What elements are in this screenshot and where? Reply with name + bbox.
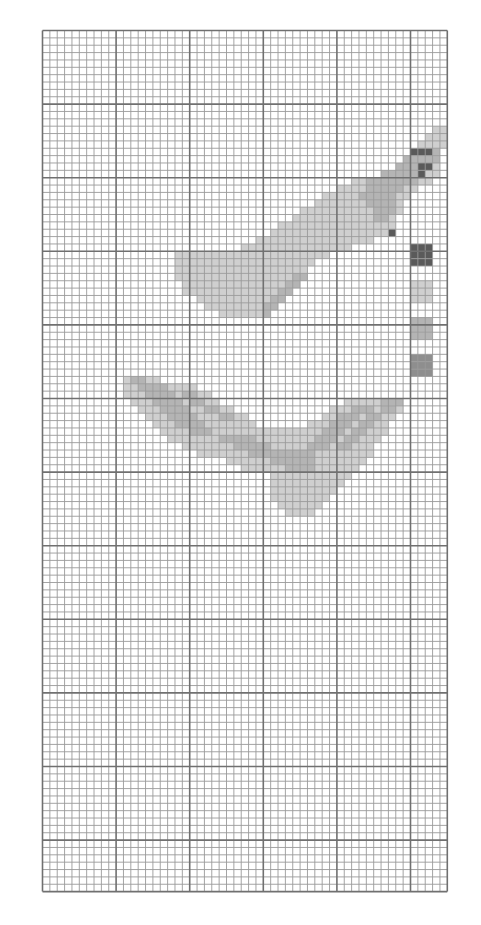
upper-bird-stitch-light bbox=[175, 251, 330, 258]
upper-bird-stitch-mid bbox=[359, 192, 396, 199]
palette-swatch-light bbox=[411, 281, 433, 288]
upper-bird-stitch-light bbox=[241, 244, 351, 251]
palette-swatch-darkest bbox=[411, 259, 433, 266]
lower-bird-stitch-mid bbox=[330, 421, 352, 428]
upper-bird-stitch-mid bbox=[374, 207, 396, 214]
palette-swatch-mid bbox=[411, 318, 433, 325]
palette-swatch-dark bbox=[411, 354, 433, 361]
upper-bird-stitch-darkest bbox=[411, 148, 433, 155]
lower-bird-stitch-mid bbox=[315, 435, 337, 442]
upper-bird-stitch-mid bbox=[396, 163, 418, 170]
lower-bird-stitch-mid bbox=[234, 443, 271, 450]
lower-bird-stitch-light bbox=[344, 399, 381, 406]
lower-bird-stitch-mid bbox=[322, 428, 344, 435]
upper-bird-stitch-mid bbox=[433, 148, 440, 155]
lower-bird-stitch-mid bbox=[381, 399, 403, 406]
lower-bird-stitch-light bbox=[271, 487, 337, 494]
upper-bird-stitch-mid bbox=[381, 170, 418, 177]
upper-bird-stitch-mid bbox=[403, 156, 440, 163]
palette-swatch-mid bbox=[411, 332, 433, 339]
palette-swatch-dark bbox=[411, 369, 433, 376]
palette-swatch-mid bbox=[411, 325, 433, 332]
palette-swatch-darkest bbox=[411, 251, 433, 258]
lower-bird-stitch-mid bbox=[219, 435, 256, 442]
upper-bird-stitch-darkest bbox=[388, 229, 395, 236]
palette-swatch-light bbox=[411, 295, 433, 302]
cross-stitch-chart bbox=[0, 0, 481, 925]
upper-bird-stitch-light bbox=[175, 259, 315, 266]
palette-swatch-light bbox=[411, 288, 433, 295]
upper-bird-stitch-light bbox=[433, 163, 440, 170]
palette-swatch-dark bbox=[411, 362, 433, 369]
lower-bird-stitch-light bbox=[271, 472, 352, 479]
upper-bird-stitch-mid bbox=[263, 310, 270, 317]
upper-bird-stitch-mid bbox=[366, 185, 403, 192]
lower-bird-stitch-mid bbox=[307, 443, 329, 450]
upper-bird-stitch-light bbox=[425, 134, 447, 141]
palette-swatch-darkest bbox=[411, 244, 433, 251]
lower-bird-stitch-mid bbox=[190, 428, 212, 435]
upper-bird-stitch-darkest bbox=[418, 170, 425, 177]
lower-bird-stitch-mid bbox=[352, 406, 374, 413]
lower-bird-stitch-mid bbox=[249, 450, 315, 457]
lower-bird-stitch-mid bbox=[337, 413, 359, 420]
upper-bird-stitch-light bbox=[175, 273, 300, 280]
